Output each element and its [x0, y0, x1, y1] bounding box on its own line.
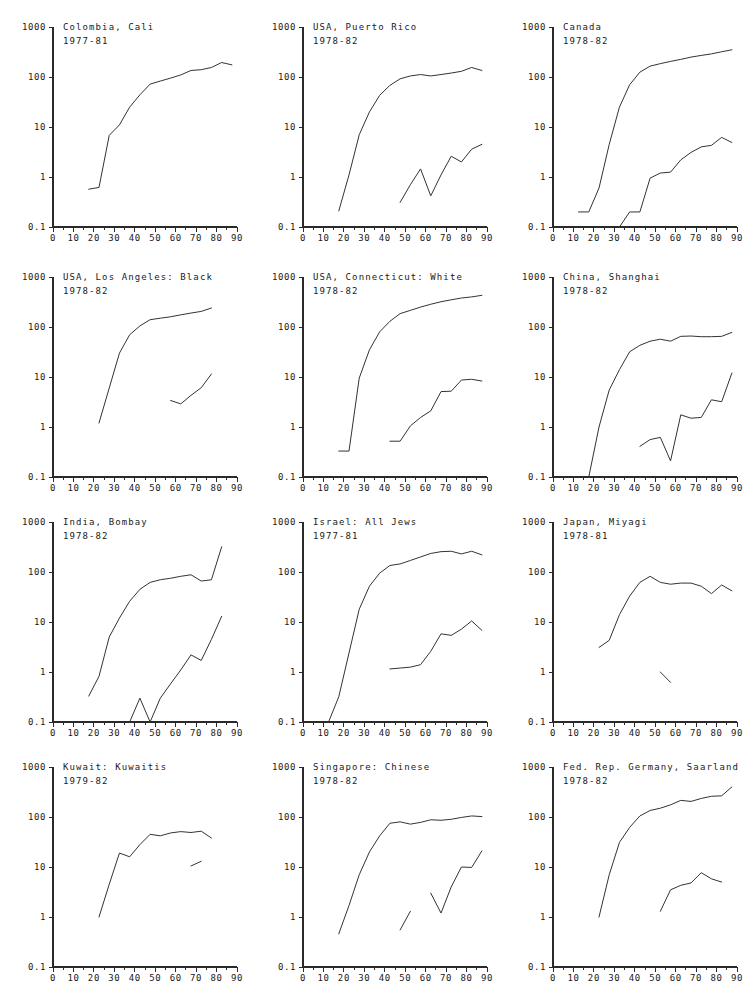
x-tick-label: 60	[170, 483, 182, 493]
y-tick-label: 0.1	[28, 472, 46, 482]
y-tick-label: 1000	[272, 22, 296, 32]
x-tick-label: 70	[440, 233, 452, 243]
x-tick-label: 60	[670, 973, 682, 983]
y-tick-label: 0.1	[28, 717, 46, 727]
data-curve	[130, 616, 222, 722]
panel-title: Israel: All Jews	[313, 517, 417, 527]
x-tick-label: 10	[317, 973, 329, 983]
panel-title: Colombia, Cali	[63, 22, 154, 32]
chart-panel: 10001001010.10102030405060708090Colombia…	[0, 0, 250, 250]
chart-panel: 10001001010.10102030405060708090USA, Los…	[0, 250, 250, 500]
x-tick-label: 70	[690, 233, 702, 243]
y-tick-label: 10	[284, 122, 296, 132]
x-tick-label: 80	[461, 728, 473, 738]
y-tick-label: 1000	[522, 762, 546, 772]
multi-panel-figure: 10001001010.10102030405060708090Colombia…	[0, 0, 750, 995]
panel-subtitle: 1978-82	[63, 286, 109, 296]
y-tick-label: 1	[290, 422, 296, 432]
x-tick-label: 50	[649, 233, 661, 243]
y-tick-label: 1	[40, 172, 46, 182]
y-tick-label: 0.1	[528, 472, 546, 482]
x-tick-label: 80	[711, 233, 723, 243]
y-tick-label: 10	[284, 617, 296, 627]
x-tick-label: 0	[550, 483, 556, 493]
y-tick-label: 1000	[272, 762, 296, 772]
y-tick-label: 0.1	[528, 222, 546, 232]
panel-title: Kuwait: Kuwaitis	[63, 762, 167, 772]
y-tick-label: 1	[40, 667, 46, 677]
x-tick-label: 40	[129, 483, 141, 493]
x-tick-label: 60	[670, 728, 682, 738]
x-tick-label: 40	[379, 973, 391, 983]
x-tick-label: 40	[629, 728, 641, 738]
y-tick-label: 1000	[272, 517, 296, 527]
x-tick-label: 90	[481, 728, 493, 738]
x-tick-label: 60	[420, 233, 432, 243]
x-tick-label: 50	[399, 728, 411, 738]
chart-panel: 10001001010.10102030405060708090Fed. Rep…	[500, 740, 750, 990]
y-tick-label: 1000	[22, 762, 46, 772]
x-tick-label: 80	[461, 973, 473, 983]
y-tick-label: 10	[534, 372, 546, 382]
x-tick-label: 20	[88, 728, 100, 738]
panel-title: Singapore: Chinese	[313, 762, 430, 772]
x-tick-label: 10	[567, 483, 579, 493]
x-tick-label: 60	[170, 728, 182, 738]
data-curve	[89, 63, 232, 190]
y-tick-label: 1000	[22, 272, 46, 282]
x-tick-label: 30	[608, 973, 620, 983]
y-tick-label: 10	[34, 862, 46, 872]
x-tick-label: 50	[149, 233, 161, 243]
x-tick-label: 40	[129, 728, 141, 738]
y-tick-label: 10	[284, 862, 296, 872]
data-curve	[390, 621, 482, 669]
data-curve	[579, 50, 732, 212]
x-tick-label: 30	[108, 233, 120, 243]
x-tick-label: 20	[588, 728, 600, 738]
chart-panel: 10001001010.10102030405060708090Israel: …	[250, 495, 500, 745]
x-tick-label: 70	[440, 483, 452, 493]
x-tick-label: 50	[649, 973, 661, 983]
x-tick-label: 10	[67, 728, 79, 738]
y-tick-label: 1	[540, 667, 546, 677]
panel-title: USA, Los Angeles: Black	[63, 272, 213, 282]
x-tick-label: 40	[629, 973, 641, 983]
x-tick-label: 60	[420, 973, 432, 983]
chart-panel: 10001001010.10102030405060708090Japan, M…	[500, 495, 750, 745]
panel-subtitle: 1978-82	[313, 36, 359, 46]
y-tick-label: 100	[28, 812, 46, 822]
y-tick-label: 1	[290, 912, 296, 922]
x-tick-label: 50	[399, 483, 411, 493]
y-tick-label: 0.1	[278, 717, 296, 727]
y-tick-label: 10	[284, 372, 296, 382]
panel-title: Fed. Rep. Germany, Saarland	[563, 762, 739, 772]
y-tick-label: 0.1	[528, 962, 546, 972]
x-tick-label: 70	[690, 728, 702, 738]
x-tick-label: 10	[317, 483, 329, 493]
x-tick-label: 20	[88, 483, 100, 493]
x-tick-label: 10	[67, 233, 79, 243]
x-tick-label: 0	[50, 728, 56, 738]
x-tick-label: 90	[481, 483, 493, 493]
panel-subtitle: 1977-81	[313, 531, 359, 541]
panel-title: Canada	[563, 22, 602, 32]
panel-subtitle: 1978-82	[563, 36, 609, 46]
panel-subtitle: 1978-82	[63, 531, 109, 541]
y-tick-label: 100	[528, 812, 546, 822]
x-tick-label: 20	[338, 973, 350, 983]
x-tick-label: 80	[211, 233, 223, 243]
data-curve	[400, 144, 482, 202]
data-curve	[89, 547, 222, 696]
x-tick-label: 20	[88, 973, 100, 983]
x-tick-label: 90	[731, 728, 743, 738]
x-tick-label: 80	[711, 728, 723, 738]
x-tick-label: 40	[629, 233, 641, 243]
x-tick-label: 90	[731, 233, 743, 243]
data-curve	[599, 576, 732, 647]
x-tick-label: 50	[399, 973, 411, 983]
data-curve	[99, 308, 211, 423]
x-tick-label: 80	[211, 973, 223, 983]
panel-title: India, Bombay	[63, 517, 148, 527]
x-tick-label: 50	[149, 728, 161, 738]
y-tick-label: 100	[278, 812, 296, 822]
